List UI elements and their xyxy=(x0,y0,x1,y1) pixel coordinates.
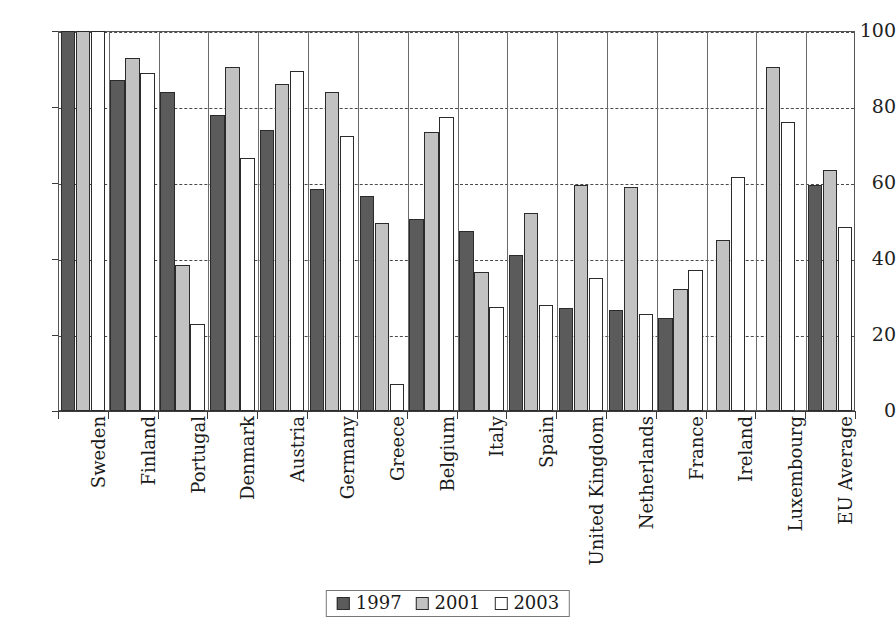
bar xyxy=(360,196,375,411)
category-label: Ireland xyxy=(737,416,755,482)
bar xyxy=(310,189,325,411)
category-label: Spain xyxy=(538,416,556,468)
bar xyxy=(424,132,439,411)
bar xyxy=(459,231,474,412)
bar xyxy=(509,255,524,411)
bars-layer xyxy=(58,31,855,411)
bar xyxy=(125,58,140,411)
bar xyxy=(61,31,76,411)
bar xyxy=(838,227,853,411)
bar xyxy=(524,213,539,411)
bar xyxy=(175,265,190,411)
y-tick-label: 20 xyxy=(852,325,896,344)
bar xyxy=(409,219,424,411)
bar xyxy=(688,270,703,411)
bar xyxy=(275,84,290,411)
bar xyxy=(559,308,574,411)
bar-group xyxy=(755,31,805,411)
bar xyxy=(766,67,781,411)
legend-swatch-icon xyxy=(494,597,507,610)
bar-group xyxy=(307,31,357,411)
category-label: Italy xyxy=(488,416,506,457)
legend-item: 2001 xyxy=(416,594,481,612)
bar xyxy=(639,314,654,411)
y-tick-label: 80 xyxy=(852,97,896,116)
category-label: Denmark xyxy=(239,416,257,500)
bar xyxy=(673,289,688,411)
bar-group xyxy=(207,31,257,411)
bar-group xyxy=(556,31,606,411)
category-label: Netherlands xyxy=(638,416,656,529)
x-axis-category-labels: SwedenFinlandPortugalDenmarkAustriaGerma… xyxy=(58,416,855,576)
bar xyxy=(160,92,175,411)
bar-group xyxy=(158,31,208,411)
legend-swatch-icon xyxy=(416,597,429,610)
bar xyxy=(539,305,554,411)
bar xyxy=(658,318,673,411)
bar-group xyxy=(407,31,457,411)
bar xyxy=(190,324,205,411)
bar xyxy=(375,223,390,411)
category-label: Portugal xyxy=(190,416,208,494)
bar xyxy=(140,73,155,411)
bar xyxy=(574,185,589,411)
bar xyxy=(589,278,604,411)
category-label: United Kingdom xyxy=(588,416,606,565)
bar xyxy=(781,122,796,411)
bar xyxy=(225,67,240,411)
legend-swatch-icon xyxy=(337,597,350,610)
bar xyxy=(325,92,340,411)
bar xyxy=(240,158,255,411)
chart-legend: 199720012003 xyxy=(326,590,570,617)
bar xyxy=(624,187,639,411)
bar-group xyxy=(108,31,158,411)
bar xyxy=(489,307,504,412)
bar xyxy=(290,71,305,411)
bar-group xyxy=(656,31,706,411)
category-label: Luxembourg xyxy=(787,416,805,532)
bar-chart: 100806040200 SwedenFinlandPortugalDenmar… xyxy=(0,0,896,644)
bar xyxy=(609,310,624,411)
bar xyxy=(823,170,838,411)
category-label: Belgium xyxy=(439,416,457,492)
bar-group xyxy=(606,31,656,411)
category-label: Greece xyxy=(389,416,407,481)
y-tick-label: 100 xyxy=(852,21,896,40)
legend-label: 2001 xyxy=(435,594,481,612)
category-label: Austria xyxy=(289,416,307,482)
category-label: EU Average xyxy=(837,416,855,525)
bar xyxy=(731,177,746,411)
category-label: France xyxy=(688,416,706,480)
bar-group xyxy=(257,31,307,411)
bar xyxy=(110,80,125,411)
category-label: Finland xyxy=(140,416,158,485)
bar xyxy=(808,185,823,411)
bar xyxy=(439,117,454,412)
bar xyxy=(390,384,405,411)
legend-label: 1997 xyxy=(356,594,402,612)
bar xyxy=(76,31,91,411)
bar-group xyxy=(357,31,407,411)
bar-group xyxy=(805,31,855,411)
bar xyxy=(340,136,355,412)
category-label: Sweden xyxy=(90,416,108,488)
bar xyxy=(260,130,275,411)
legend-item: 1997 xyxy=(337,594,402,612)
y-tick-label: 40 xyxy=(852,249,896,268)
bar xyxy=(716,240,731,411)
bar-group xyxy=(58,31,108,411)
legend-item: 2003 xyxy=(494,594,559,612)
y-tick-label: 60 xyxy=(852,173,896,192)
bar xyxy=(210,115,225,411)
bar-group xyxy=(457,31,507,411)
legend-label: 2003 xyxy=(513,594,559,612)
bar xyxy=(91,31,106,411)
bar xyxy=(474,272,489,411)
category-label: Germany xyxy=(339,416,357,499)
y-tick-label: 0 xyxy=(852,401,896,420)
bar-group xyxy=(506,31,556,411)
bar-group xyxy=(706,31,756,411)
